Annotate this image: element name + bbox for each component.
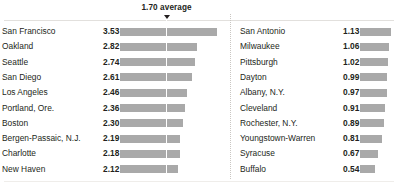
panel-divider — [230, 14, 232, 179]
bar — [120, 150, 180, 158]
value-label: 0.97 — [343, 87, 359, 98]
average-label: 1.70 average — [141, 3, 191, 12]
bar — [360, 58, 388, 66]
value-label: 2.61 — [103, 72, 119, 83]
bar — [120, 104, 185, 112]
value-label: 2.36 — [103, 103, 119, 114]
value-label: 2.74 — [103, 57, 119, 68]
value-label: 0.81 — [343, 133, 359, 144]
bar — [360, 104, 385, 112]
bar — [120, 165, 178, 173]
bar — [120, 43, 197, 51]
bar — [360, 150, 378, 158]
top-rule — [4, 20, 394, 21]
bar — [360, 135, 382, 143]
bar-chart: 1.70 average San Francisco3.53Oakland2.8… — [0, 0, 398, 187]
value-label: 1.02 — [343, 57, 359, 68]
bar — [360, 89, 387, 97]
average-line — [166, 20, 167, 179]
value-label: 2.30 — [103, 118, 119, 129]
bottom-rule — [4, 181, 394, 182]
value-label: 2.19 — [103, 133, 119, 144]
average-marker-triangle-icon — [164, 15, 170, 19]
value-label: 2.18 — [103, 148, 119, 159]
bar — [120, 73, 192, 81]
bar — [360, 73, 387, 81]
value-label: 2.46 — [103, 87, 119, 98]
value-label: 1.06 — [343, 41, 359, 52]
bar — [360, 119, 384, 127]
bar — [360, 43, 389, 51]
bar — [360, 165, 375, 173]
value-label: 0.54 — [343, 164, 359, 175]
value-label: 3.53 — [103, 26, 119, 37]
value-label: 0.99 — [343, 72, 359, 83]
value-label: 0.67 — [343, 148, 359, 159]
value-label: 0.91 — [343, 103, 359, 114]
value-label: 1.13 — [343, 26, 359, 37]
bar — [120, 58, 195, 66]
value-label: 0.89 — [343, 118, 359, 129]
bar — [120, 135, 180, 143]
bar — [120, 28, 217, 36]
value-label: 2.82 — [103, 41, 119, 52]
bar — [120, 119, 183, 127]
bar — [360, 28, 391, 36]
bar — [120, 89, 187, 97]
value-label: 2.12 — [103, 164, 119, 175]
